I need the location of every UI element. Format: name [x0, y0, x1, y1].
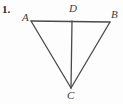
triangle-diagram [0, 0, 123, 104]
vertex-label-b: B [111, 9, 118, 20]
triangle-strokes [31, 21, 110, 88]
segment-BC-line [71, 22, 110, 88]
segment-AB-line [31, 21, 110, 22]
segment-AC-line [31, 21, 71, 88]
vertex-label-a: A [22, 12, 29, 23]
vertex-label-d: D [69, 3, 77, 14]
segment-DC-line [71, 21, 72, 88]
vertex-label-c: C [67, 90, 74, 101]
geometry-figure: 1. A D B C [0, 0, 123, 104]
